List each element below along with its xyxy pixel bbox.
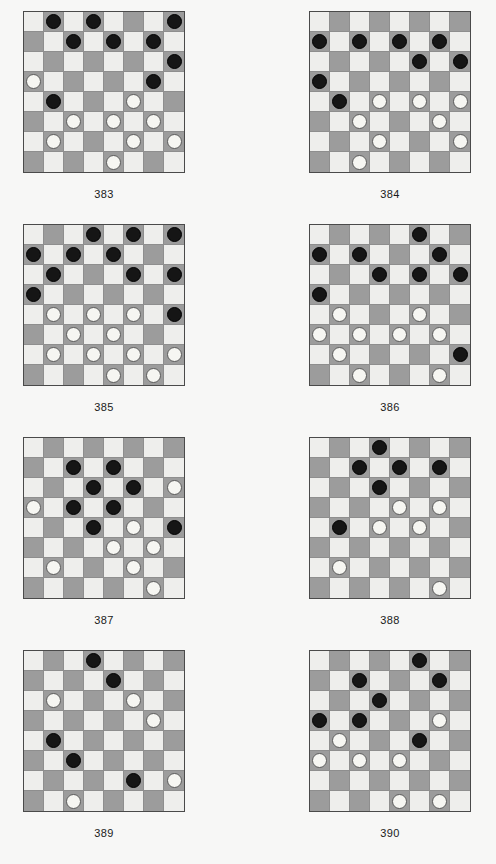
board-square-r3-c0[interactable] [310, 711, 330, 731]
black-checker-piece[interactable] [86, 227, 101, 242]
board-square-r0-c3[interactable] [370, 438, 390, 458]
board-square-r1-c5[interactable] [410, 458, 430, 478]
board-square-r0-c0[interactable] [24, 438, 44, 458]
board-square-r5-c4[interactable] [104, 325, 124, 345]
board-square-r0-c5[interactable] [410, 438, 430, 458]
board-square-r3-c2[interactable] [64, 498, 84, 518]
board-square-r2-c1[interactable] [330, 265, 350, 285]
board-square-r7-c7[interactable] [164, 152, 184, 172]
board-square-r3-c1[interactable] [44, 498, 64, 518]
board-square-r0-c4[interactable] [104, 438, 124, 458]
board-square-r3-c7[interactable] [450, 498, 470, 518]
board-square-r6-c0[interactable] [310, 345, 330, 365]
board-square-r4-c1[interactable] [330, 518, 350, 538]
board-square-r7-c0[interactable] [310, 365, 330, 385]
board-square-r6-c2[interactable] [64, 132, 84, 152]
board-square-r1-c0[interactable] [24, 32, 44, 52]
board-square-r3-c3[interactable] [84, 711, 104, 731]
board-square-r0-c3[interactable] [370, 225, 390, 245]
board-square-r0-c1[interactable] [44, 12, 64, 32]
board-square-r6-c6[interactable] [144, 558, 164, 578]
board-square-r4-c5[interactable] [124, 518, 144, 538]
board-square-r6-c6[interactable] [430, 558, 450, 578]
board-square-r4-c0[interactable] [310, 731, 330, 751]
board-square-r4-c6[interactable] [430, 731, 450, 751]
white-checker-piece[interactable] [106, 327, 121, 342]
white-checker-piece[interactable] [146, 540, 161, 555]
board-square-r4-c3[interactable] [370, 518, 390, 538]
black-checker-piece[interactable] [412, 653, 427, 668]
board-square-r5-c3[interactable] [370, 751, 390, 771]
board-square-r7-c3[interactable] [84, 578, 104, 598]
board-square-r4-c4[interactable] [104, 92, 124, 112]
board-square-r4-c4[interactable] [104, 305, 124, 325]
board-square-r3-c6[interactable] [430, 72, 450, 92]
board-square-r2-c6[interactable] [430, 265, 450, 285]
white-checker-piece[interactable] [167, 134, 182, 149]
board-square-r0-c0[interactable] [24, 651, 44, 671]
board-square-r4-c3[interactable] [84, 731, 104, 751]
white-checker-piece[interactable] [432, 581, 447, 596]
board-square-r7-c0[interactable] [24, 791, 44, 811]
board-square-r0-c6[interactable] [430, 225, 450, 245]
board-square-r5-c2[interactable] [64, 538, 84, 558]
board-square-r5-c0[interactable] [310, 751, 330, 771]
black-checker-piece[interactable] [167, 307, 182, 322]
board-square-r3-c6[interactable] [144, 72, 164, 92]
board-square-r3-c4[interactable] [104, 285, 124, 305]
board-square-r7-c1[interactable] [44, 578, 64, 598]
white-checker-piece[interactable] [332, 307, 347, 322]
board-square-r6-c7[interactable] [450, 132, 470, 152]
white-checker-piece[interactable] [106, 540, 121, 555]
white-checker-piece[interactable] [432, 114, 447, 129]
board-square-r3-c5[interactable] [124, 285, 144, 305]
board-square-r2-c7[interactable] [450, 478, 470, 498]
black-checker-piece[interactable] [332, 94, 347, 109]
board-square-r0-c1[interactable] [44, 438, 64, 458]
board-square-r1-c7[interactable] [450, 671, 470, 691]
board-square-r0-c3[interactable] [84, 438, 104, 458]
board-square-r1-c4[interactable] [390, 32, 410, 52]
board-square-r3-c7[interactable] [450, 72, 470, 92]
board-square-r3-c5[interactable] [124, 72, 144, 92]
board-square-r1-c1[interactable] [330, 671, 350, 691]
board-square-r7-c3[interactable] [84, 365, 104, 385]
board-square-r2-c3[interactable] [84, 52, 104, 72]
board-square-r0-c4[interactable] [104, 651, 124, 671]
board-square-r4-c7[interactable] [450, 731, 470, 751]
board-square-r4-c0[interactable] [310, 518, 330, 538]
board-square-r1-c3[interactable] [370, 671, 390, 691]
white-checker-piece[interactable] [372, 94, 387, 109]
board-square-r0-c3[interactable] [84, 651, 104, 671]
black-checker-piece[interactable] [106, 247, 121, 262]
board-square-r7-c6[interactable] [430, 578, 450, 598]
board-square-r7-c0[interactable] [24, 365, 44, 385]
black-checker-piece[interactable] [106, 500, 121, 515]
board-square-r2-c2[interactable] [350, 478, 370, 498]
board-square-r7-c4[interactable] [390, 578, 410, 598]
board-square-r3-c2[interactable] [350, 498, 370, 518]
board-square-r5-c0[interactable] [24, 325, 44, 345]
board-square-r0-c7[interactable] [450, 438, 470, 458]
board-square-r2-c0[interactable] [310, 691, 330, 711]
board-square-r2-c3[interactable] [84, 691, 104, 711]
white-checker-piece[interactable] [146, 713, 161, 728]
board-square-r1-c4[interactable] [390, 458, 410, 478]
board-square-r6-c6[interactable] [144, 345, 164, 365]
board-square-r3-c4[interactable] [104, 711, 124, 731]
board-square-r0-c1[interactable] [330, 438, 350, 458]
board-square-r2-c6[interactable] [430, 478, 450, 498]
board-square-r3-c2[interactable] [350, 72, 370, 92]
board-square-r7-c1[interactable] [330, 365, 350, 385]
white-checker-piece[interactable] [126, 134, 141, 149]
board-square-r2-c7[interactable] [450, 52, 470, 72]
black-checker-piece[interactable] [352, 247, 367, 262]
board-square-r4-c7[interactable] [164, 92, 184, 112]
board-square-r2-c1[interactable] [330, 478, 350, 498]
board-square-r2-c0[interactable] [24, 265, 44, 285]
board-square-r6-c3[interactable] [84, 132, 104, 152]
board-square-r0-c4[interactable] [390, 12, 410, 32]
board-square-r7-c5[interactable] [410, 152, 430, 172]
board-square-r6-c4[interactable] [390, 345, 410, 365]
board-square-r2-c1[interactable] [44, 265, 64, 285]
